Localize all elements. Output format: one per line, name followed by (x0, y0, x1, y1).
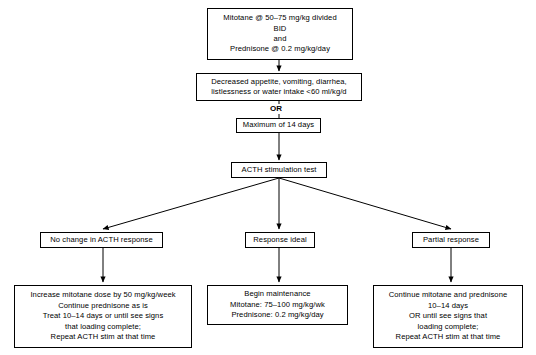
acth-stimulation-test-box: ACTH stimulation test (231, 162, 327, 178)
edge-acth-to-no-change (103, 178, 279, 229)
partial-plan-line-3: OR until see signs that (409, 311, 487, 321)
induction-line-2: BID (274, 24, 287, 34)
induction-protocol-box: Mitotane @ 50–75 mg/kg divided BID and P… (207, 8, 353, 60)
edge-acth-to-partial (279, 178, 451, 229)
plan-partial-response-box: Continue mitotane and prednisone 10–14 d… (373, 285, 523, 348)
outcome-partial-response-box: Partial response (412, 232, 490, 248)
induction-line-3: and (274, 34, 287, 44)
ideal-plan-line-3: Prednisone: 0.2 mg/kg/day (231, 310, 323, 320)
max-days-line-1: Maximum of 14 days (243, 120, 314, 130)
plan-no-change-box: Increase mitotane dose by 50 mg/kg/week … (14, 285, 192, 348)
ideal-plan-line-1: Begin maintenance (244, 289, 310, 299)
or-connector-label: OR (270, 104, 282, 114)
signs-line-2: listlessness or water intake <60 ml/kg/d (211, 87, 346, 97)
maximum-duration-box: Maximum of 14 days (236, 118, 321, 133)
no-change-line-1: No change in ACTH response (50, 235, 152, 245)
partial-plan-line-2: 10–14 days (428, 301, 468, 311)
no-change-plan-line-5: Repeat ACTH stim at that time (51, 332, 156, 342)
ideal-line-1: Response ideal (253, 235, 306, 245)
no-change-plan-line-2: Continue prednisone as is (58, 301, 148, 311)
induction-line-1: Mitotane @ 50–75 mg/kg divided (223, 13, 336, 23)
no-change-plan-line-4: that loading complete; (65, 322, 141, 332)
outcome-no-change-box: No change in ACTH response (40, 232, 163, 248)
partial-plan-line-1: Continue mitotane and prednisone (389, 290, 508, 300)
plan-begin-maintenance-box: Begin maintenance Mitotane: 75–100 mg/kg… (207, 285, 348, 325)
no-change-plan-line-3: Treat 10–14 days or until see signs (43, 311, 164, 321)
ideal-plan-line-2: Mitotane: 75–100 mg/kg/wk (230, 300, 325, 310)
signs-line-1: Decreased appetite, vomiting, diarrhea, (211, 77, 347, 87)
acth-test-line-1: ACTH stimulation test (241, 165, 316, 175)
outcome-response-ideal-box: Response ideal (245, 232, 315, 248)
flowchart-canvas: Mitotane @ 50–75 mg/kg divided BID and P… (0, 0, 536, 355)
induction-line-4: Prednisone @ 0.2 mg/kg/day (230, 44, 330, 54)
partial-plan-line-5: Repeat ACTH stim at that time (396, 332, 501, 342)
partial-plan-line-4: loading complete; (418, 322, 479, 332)
clinical-signs-box: Decreased appetite, vomiting, diarrhea, … (196, 73, 362, 101)
partial-line-1: Partial response (423, 235, 479, 245)
no-change-plan-line-1: Increase mitotane dose by 50 mg/kg/week (30, 290, 175, 300)
